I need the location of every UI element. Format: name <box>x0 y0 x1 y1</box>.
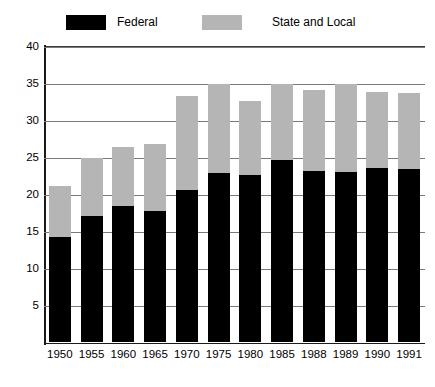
y-tick-label-40: 40 <box>14 41 39 53</box>
bar-segment-federal-1988[interactable] <box>303 171 325 343</box>
y-tick-label-5: 5 <box>14 300 39 312</box>
bar-group-1965[interactable] <box>144 0 166 387</box>
y-tick-label-10: 10 <box>14 263 39 275</box>
bar-segment-state-and-local-1970[interactable] <box>176 96 198 190</box>
bar-segment-state-and-local-1980[interactable] <box>239 101 261 176</box>
bar-segment-federal-1950[interactable] <box>49 237 71 343</box>
x-tick-label-1989: 1989 <box>330 349 362 361</box>
bar-segment-federal-1955[interactable] <box>81 216 103 343</box>
bar-segment-federal-1960[interactable] <box>112 206 134 342</box>
bar-segment-state-and-local-1965[interactable] <box>144 144 166 211</box>
x-tick-label-1955: 1955 <box>76 349 108 361</box>
bar-group-1975[interactable] <box>208 0 230 387</box>
y-tick-label-30: 30 <box>14 115 39 127</box>
bar-group-1950[interactable] <box>49 0 71 387</box>
bar-group-1990[interactable] <box>366 0 388 387</box>
y-tick-label-35: 35 <box>14 78 39 90</box>
y-tick-label-25: 25 <box>14 152 39 164</box>
bar-segment-state-and-local-1955[interactable] <box>81 158 103 216</box>
bar-group-1988[interactable] <box>303 0 325 387</box>
x-tick-label-1980: 1980 <box>235 349 267 361</box>
bar-group-1960[interactable] <box>112 0 134 387</box>
x-tick-label-1988: 1988 <box>298 349 330 361</box>
bar-segment-federal-1991[interactable] <box>398 169 420 343</box>
bar-group-1991[interactable] <box>398 0 420 387</box>
bar-segment-state-and-local-1990[interactable] <box>366 92 388 168</box>
bar-group-1989[interactable] <box>335 0 357 387</box>
bar-segment-state-and-local-1950[interactable] <box>49 186 71 237</box>
bar-group-1985[interactable] <box>271 0 293 387</box>
x-tick-label-1970: 1970 <box>171 349 203 361</box>
bar-group-1980[interactable] <box>239 0 261 387</box>
bar-group-1970[interactable] <box>176 0 198 387</box>
x-tick-label-1950: 1950 <box>44 349 76 361</box>
x-tick-label-1975: 1975 <box>203 349 235 361</box>
bar-segment-federal-1989[interactable] <box>335 172 357 342</box>
x-axis-tick-labels: 1950195519601965197019751980198519881989… <box>44 349 425 369</box>
stacked-bar-chart: Federal State and Local 403530252015105 … <box>0 0 435 387</box>
bar-segment-federal-1985[interactable] <box>271 160 293 343</box>
y-tick-label-15: 15 <box>14 226 39 238</box>
bar-segment-federal-1990[interactable] <box>366 168 388 343</box>
bar-segment-state-and-local-1989[interactable] <box>335 84 357 173</box>
x-tick-label-1985: 1985 <box>266 349 298 361</box>
bar-segment-federal-1980[interactable] <box>239 175 261 342</box>
bar-segment-state-and-local-1975[interactable] <box>208 84 230 174</box>
bar-segment-federal-1970[interactable] <box>176 190 198 342</box>
x-tick-label-1960: 1960 <box>108 349 140 361</box>
bar-segment-state-and-local-1991[interactable] <box>398 93 420 168</box>
x-tick-label-1991: 1991 <box>393 349 425 361</box>
bar-segment-state-and-local-1960[interactable] <box>112 147 134 206</box>
bar-segment-federal-1975[interactable] <box>208 173 230 342</box>
y-tick-label-20: 20 <box>14 189 39 201</box>
bar-segment-state-and-local-1988[interactable] <box>303 90 325 171</box>
x-tick-label-1965: 1965 <box>139 349 171 361</box>
x-tick-label-1990: 1990 <box>362 349 394 361</box>
bar-segment-state-and-local-1985[interactable] <box>271 84 293 160</box>
bar-group-1955[interactable] <box>81 0 103 387</box>
bar-segment-federal-1965[interactable] <box>144 211 166 343</box>
bar-series-layer <box>44 0 425 387</box>
